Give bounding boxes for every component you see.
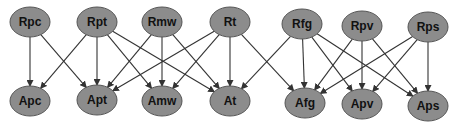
node-label: Rpv: [351, 19, 374, 33]
node-apt: Apt: [77, 85, 117, 115]
node-apv: Apv: [342, 89, 382, 119]
node-label: Rt: [224, 15, 237, 29]
node-label: Apc: [19, 94, 42, 108]
node-label: Apv: [351, 97, 374, 111]
node-label: Aps: [417, 99, 440, 113]
node-apc: Apc: [10, 86, 50, 116]
node-label: Rpc: [19, 15, 42, 29]
node-rmw: Rmw: [142, 7, 182, 37]
node-label: Afg: [295, 96, 315, 110]
edge-rfg-to-apv: [312, 37, 352, 91]
node-amw: Amw: [142, 86, 182, 116]
node-at: At: [210, 86, 250, 116]
node-rpc: Rpc: [10, 7, 50, 37]
diagram-canvas: RpcRptRmwRtRfgRpvRpsApcAptAmwAtAfgApvAps: [0, 0, 456, 130]
node-label: Apt: [87, 93, 107, 107]
node-aps: Aps: [408, 91, 448, 121]
node-rps: Rps: [408, 12, 448, 42]
node-rfg: Rfg: [282, 9, 322, 39]
node-layer: RpcRptRmwRtRfgRpvRpsApcAptAmwAtAfgApvAps: [10, 7, 448, 121]
node-label: Rmw: [148, 15, 177, 29]
node-label: Rpt: [87, 15, 107, 29]
edge-rpv-to-afg: [315, 39, 353, 90]
edge-rt-to-afg: [241, 34, 293, 90]
node-rpt: Rpt: [77, 7, 117, 37]
node-label: At: [224, 94, 237, 108]
node-rt: Rt: [210, 7, 250, 37]
node-label: Amw: [148, 94, 177, 108]
node-afg: Afg: [285, 88, 325, 118]
node-rpv: Rpv: [342, 11, 382, 41]
node-label: Rfg: [292, 17, 312, 31]
edge-rfg-to-afg: [303, 39, 305, 88]
edge-rfg-to-at: [242, 36, 291, 88]
node-label: Rps: [417, 20, 440, 34]
